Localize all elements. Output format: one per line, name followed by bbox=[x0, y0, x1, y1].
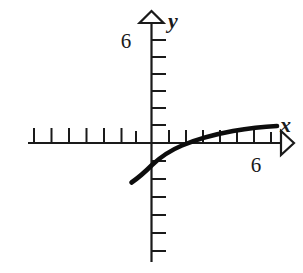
x-axis-ticks-negative bbox=[34, 128, 136, 143]
y-axis-label: y bbox=[165, 8, 178, 33]
x-axis-label: x bbox=[279, 112, 291, 137]
coordinate-plane-figure: 6 6 y x bbox=[0, 0, 303, 273]
graph-screenshot: 6 6 y x bbox=[0, 0, 303, 273]
x-axis-tick-label-6: 6 bbox=[251, 153, 262, 177]
y-axis-ticks bbox=[152, 40, 167, 251]
y-axis-arrow-icon bbox=[140, 11, 164, 23]
y-axis-tick-label-6: 6 bbox=[121, 29, 132, 53]
